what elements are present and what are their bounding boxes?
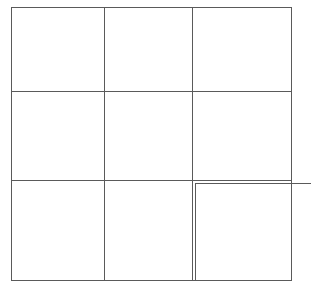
grid-cell-r2-c1[interactable] (104, 180, 193, 281)
grid-cell-r1-c2[interactable] (192, 91, 279, 181)
grid-cell-r0-c2[interactable] (192, 7, 279, 92)
grid-cell-r1-c1[interactable] (104, 91, 193, 181)
grid-cell-r2-c2-selected[interactable] (192, 180, 279, 281)
grid-cell-r2-c0[interactable] (11, 180, 105, 281)
grid-cell-r0-c0[interactable] (11, 7, 105, 92)
grid-board (11, 7, 279, 281)
grid-cell-r1-c0[interactable] (11, 91, 105, 181)
grid-cell-r0-c1[interactable] (104, 7, 193, 92)
